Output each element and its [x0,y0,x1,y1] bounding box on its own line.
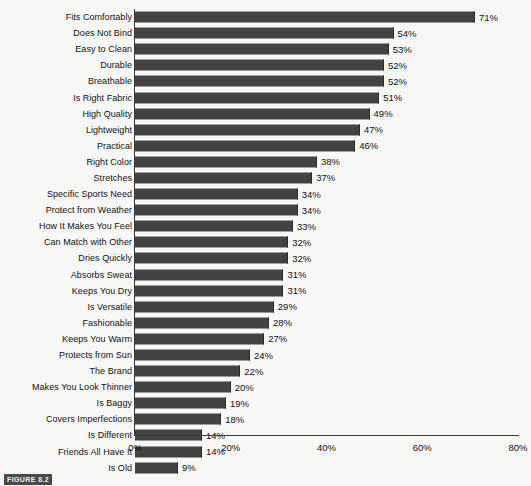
x-axis-line [134,435,519,436]
category-label: High Quality [82,109,132,119]
category-label: Easy to Clean [75,44,132,54]
bar-value-label: 34% [298,205,321,215]
bar-row: Is Versatile29% [0,299,531,315]
bar-row: Practical46% [0,138,531,154]
bar-track: 31% [135,269,525,280]
bar [135,301,274,312]
bar-track: 37% [135,172,525,183]
bar-row: How It Makes You Feel33% [0,218,531,234]
bar [135,366,240,377]
bar-track: 34% [135,189,525,200]
category-label: Does Not Bind [73,28,132,38]
bar-track: 32% [135,253,525,264]
bar [135,414,221,425]
bar-value-label: 71% [475,12,498,22]
category-label: How It Makes You Feel [39,221,132,231]
category-label: Is Different [88,430,132,440]
category-label: Is Baggy [97,398,132,408]
bar-row: Specific Sports Need34% [0,186,531,202]
category-label: Is Versatile [87,302,132,312]
bar-row: Can Match with Other32% [0,234,531,250]
bar-value-label: 31% [283,270,306,280]
bar-track: 38% [135,156,525,167]
bar-row: Absorbs Sweat31% [0,267,531,283]
category-label: Durable [100,60,132,70]
bar-value-label: 33% [293,221,316,231]
bar [135,76,384,87]
bar-row: Fits Comfortably71% [0,9,531,25]
figure-caption: FIGURE 8.2 [0,474,531,486]
category-label: Stretches [94,173,132,183]
bar-value-label: 32% [288,253,311,263]
bar [135,172,312,183]
bar-value-label: 52% [384,76,407,86]
bar-value-label: 27% [264,334,287,344]
y-axis-line [134,9,135,435]
bar-row: Keeps You Dry31% [0,283,531,299]
category-label: Lightweight [86,125,132,135]
bar-row: Stretches37% [0,170,531,186]
bar-track: 9% [135,462,525,473]
bar [135,156,317,167]
bar [135,60,384,71]
category-label: Is Old [108,463,132,473]
category-label: Covers Imperfections [46,414,132,424]
bar-track: 34% [135,205,525,216]
bar-row: Is Right Fabric51% [0,89,531,105]
figure-container: Fits Comfortably71%Does Not Bind54%Easy … [0,0,531,486]
x-axis-tick-labels: 0%20%40%60%80% [0,441,531,457]
bar-value-label: 24% [250,350,273,360]
category-label: Is Right Fabric [73,93,132,103]
bar-row: Easy to Clean53% [0,41,531,57]
bar-row: Breathable52% [0,73,531,89]
bar-value-label: 51% [379,93,402,103]
bar-value-label: 46% [355,141,378,151]
category-label: Keeps You Warm [62,334,132,344]
bar [135,237,288,248]
bar-row: Does Not Bind54% [0,25,531,41]
figure-number-badge: FIGURE 8.2 [4,474,52,485]
bar-value-label: 47% [360,125,383,135]
bar-track: 18% [135,414,525,425]
bar-row: Keeps You Warm27% [0,331,531,347]
x-axis-tick: 20% [221,441,240,455]
category-label: Practical [97,141,132,151]
bar-value-label: 20% [231,382,254,392]
bar-value-label: 32% [288,237,311,247]
bar-row: Durable52% [0,57,531,73]
bar-track: 51% [135,92,525,103]
bar-chart-plot-area: Fits Comfortably71%Does Not Bind54%Easy … [0,0,531,470]
bar-row: Makes You Look Thinner20% [0,379,531,395]
bar-row: Right Color38% [0,154,531,170]
bar-track: 47% [135,124,525,135]
category-label: Makes You Look Thinner [32,382,132,392]
bar-value-label: 31% [283,286,306,296]
bar-track: 28% [135,317,525,328]
bar-row: Lightweight47% [0,122,531,138]
bar [135,189,298,200]
category-label: Breathable [88,76,132,86]
category-label: Protect from Weather [46,205,132,215]
bar-track: 24% [135,350,525,361]
bar [135,205,298,216]
bar-value-label: 52% [384,60,407,70]
bar [135,253,288,264]
bar-row: Covers Imperfections18% [0,411,531,427]
bar-value-label: 54% [394,28,417,38]
category-label: Specific Sports Need [47,189,132,199]
bar-row: The Brand22% [0,363,531,379]
bar-row: Protects from Sun24% [0,347,531,363]
bar-row: Is Baggy19% [0,395,531,411]
category-label: Absorbs Sweat [71,270,132,280]
bar-row: Fashionable28% [0,315,531,331]
bar [135,398,226,409]
bar [135,221,293,232]
bar-value-label: 34% [298,189,321,199]
bar [135,108,370,119]
bar [135,28,394,39]
category-label: Fashionable [82,318,132,328]
bar [135,382,231,393]
category-label: Can Match with Other [44,237,132,247]
bar [135,140,355,151]
bar-track: 71% [135,12,525,23]
